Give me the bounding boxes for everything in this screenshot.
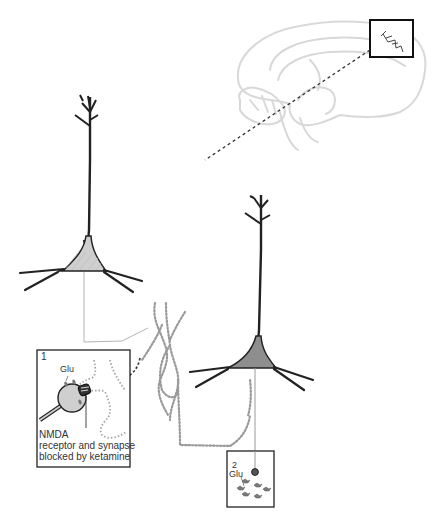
left-axon-connector — [84, 272, 148, 342]
inset-1-caption-line3: blocked by ketamine — [39, 451, 135, 462]
right-soma — [228, 336, 276, 368]
left-soma — [58, 236, 106, 271]
right-apical-dendrite — [254, 195, 261, 346]
inset-2-glu-label: Glu — [229, 469, 243, 479]
brain-region-box — [370, 20, 413, 57]
inset-1-number: 1 — [41, 351, 47, 363]
inset-1-caption-line1: NMDA — [39, 429, 135, 440]
left-pyramidal-neuron — [20, 95, 142, 292]
inset-1-caption-line2: receptor and synapse — [39, 440, 135, 451]
inset-1-caption: NMDA receptor and synapse blocked by ket… — [39, 429, 135, 462]
inset-2-terminal — [252, 469, 259, 476]
inset-1-glu-label: Glu — [60, 364, 74, 374]
right-pyramidal-neuron — [190, 195, 313, 390]
left-apical-dendrite — [84, 97, 90, 245]
